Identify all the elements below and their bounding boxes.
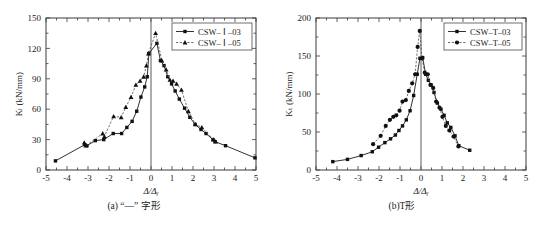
data-point-square [468, 149, 471, 152]
data-point-square [371, 150, 374, 153]
data-point-square [346, 158, 349, 161]
data-point-square [188, 116, 191, 119]
y-tick-label: 30 [32, 135, 42, 145]
legend-label: CSW– Ⅰ –03 [198, 27, 241, 37]
x-tick-label: -4 [333, 173, 341, 183]
legend-label: CSW–T–03 [470, 27, 511, 37]
data-point-square [377, 146, 380, 149]
data-point-triangle [129, 95, 134, 99]
data-point-triangle [141, 74, 146, 78]
chart-panel-b: 050100150200-5-4-3-2-1012345Δ/ΔᵧKₜ (kN/m… [268, 0, 536, 226]
x-tick-label: 4 [503, 173, 508, 183]
data-point-square [401, 124, 404, 127]
y-axis-title: Kₗ (kN/mm) [14, 72, 24, 116]
chart-svg-a: 0306090120150-5-4-3-2-1012345Δ/ΔᵧKₗ (kN/… [0, 0, 268, 196]
x-tick-label: -3 [354, 173, 362, 183]
data-point-square [143, 85, 146, 88]
data-point-square [94, 139, 97, 142]
x-tick-label: 2 [191, 173, 196, 183]
x-tick-label: 0 [149, 173, 154, 183]
data-point-square [183, 106, 186, 109]
x-tick-label: -4 [63, 173, 71, 183]
data-point-square [173, 89, 176, 92]
data-point-circle [404, 98, 408, 102]
y-tick-label: 60 [32, 104, 42, 114]
data-point-circle [388, 118, 392, 122]
x-tick-label: 0 [419, 173, 424, 183]
figure-two-panel-stiffness-degradation: 0306090120150-5-4-3-2-1012345Δ/ΔᵧKₗ (kN/… [0, 0, 536, 226]
data-point-circle [437, 106, 441, 110]
x-axis-title: Δ/Δᵧ [412, 186, 428, 196]
x-tick-label: 4 [233, 173, 238, 183]
chart-panel-a: 0306090120150-5-4-3-2-1012345Δ/ΔᵧKₗ (kN/… [0, 0, 268, 226]
data-point-circle [418, 29, 422, 33]
x-tick-label: 5 [254, 173, 259, 183]
panel-b-caption: (b)T形 [268, 198, 536, 212]
data-point-square [394, 133, 397, 136]
data-point-circle [431, 86, 435, 90]
data-point-circle [413, 72, 417, 76]
legend-marker-square [183, 30, 186, 33]
data-point-circle [447, 128, 451, 132]
data-point-triangle [119, 115, 124, 119]
legend-label: CSW–T–05 [470, 38, 511, 48]
y-tick-label: 100 [298, 89, 312, 99]
data-point-circle [371, 142, 375, 146]
data-point-circle [410, 81, 414, 85]
data-point-circle [426, 72, 430, 76]
data-point-triangle [123, 105, 128, 109]
data-point-triangle [179, 88, 184, 92]
data-point-circle [416, 45, 420, 49]
x-tick-label: 1 [170, 173, 175, 183]
data-point-circle [440, 115, 444, 119]
data-point-triangle [111, 114, 116, 118]
data-point-triangle [138, 78, 143, 82]
y-tick-label: 150 [28, 13, 42, 23]
data-point-square [412, 94, 415, 97]
x-tick-label: 3 [212, 173, 217, 183]
data-point-square [331, 160, 334, 163]
y-tick-label: 90 [32, 74, 42, 84]
x-tick-label: 2 [461, 173, 466, 183]
data-point-square [389, 137, 392, 140]
x-tick-label: -5 [42, 173, 50, 183]
data-point-square [178, 97, 181, 100]
data-point-square [405, 118, 408, 121]
data-point-circle [407, 89, 411, 93]
data-point-circle [456, 144, 460, 148]
x-axis-title: Δ/Δᵧ [142, 186, 158, 196]
data-point-square [253, 156, 256, 159]
x-tick-label: -2 [105, 173, 113, 183]
panel-a-caption: (a) “—” 字形 [0, 198, 268, 212]
x-tick-label: -5 [312, 173, 320, 183]
data-point-circle [379, 134, 383, 138]
y-tick-label: 0 [37, 165, 42, 175]
data-point-square [135, 110, 138, 113]
y-tick-label: 200 [298, 13, 312, 23]
y-tick-label: 150 [298, 51, 312, 61]
data-point-square [146, 75, 149, 78]
data-point-triangle [153, 31, 158, 35]
data-point-square [112, 132, 115, 135]
data-point-triangle [199, 125, 204, 129]
data-point-square [224, 144, 227, 147]
data-point-circle [384, 124, 388, 128]
data-point-circle [394, 113, 398, 117]
x-tick-label: 3 [482, 173, 487, 183]
data-point-circle [397, 109, 401, 113]
data-point-circle [434, 100, 438, 104]
legend-marker-circle [455, 40, 459, 44]
data-point-square [383, 141, 386, 144]
data-point-square [130, 120, 133, 123]
y-tick-label: 120 [28, 44, 42, 54]
data-point-square [54, 159, 57, 162]
data-point-square [125, 126, 128, 129]
y-tick-label: 0 [307, 165, 312, 175]
legend-marker-square [455, 30, 458, 33]
data-point-circle [444, 124, 448, 128]
x-tick-label: -1 [396, 173, 404, 183]
x-tick-label: -2 [375, 173, 383, 183]
data-point-square [408, 109, 411, 112]
x-tick-label: -3 [84, 173, 92, 183]
legend-label: CSW– Ⅰ –05 [198, 38, 241, 48]
